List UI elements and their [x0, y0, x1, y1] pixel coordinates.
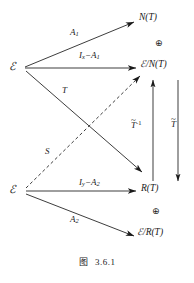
direct-sum-icon-top: ⊕: [155, 39, 163, 48]
commutative-diagram-canvas: [0, 0, 194, 283]
edge-label-ix-minus-a1: Ix−A1: [79, 51, 100, 61]
caption-number: 3.6.1: [95, 257, 116, 267]
node-label-x-space: ℰ: [9, 61, 16, 72]
edge-label-s: S: [45, 147, 50, 156]
figure-3-6-1: ℰ ℰ N(T) ℰ/N(T) R(T) ℰ/R(T) A1 Ix−A1 T S…: [0, 0, 194, 283]
arrow-y-to-y-mod-rt: [26, 194, 134, 236]
direct-sum-icon-bottom: ⊕: [152, 207, 160, 216]
node-label-nt: N(T): [139, 13, 157, 23]
edge-label-t: T: [62, 86, 67, 95]
node-label-y-space: ℰ: [9, 184, 16, 195]
edge-label-t-tilde: ~T: [171, 120, 176, 129]
figure-caption: 图3.6.1: [0, 255, 194, 268]
edge-label-a1: A1: [70, 28, 79, 38]
arrow-y-to-x-mod-nt-map-s: [26, 76, 140, 188]
caption-prefix: 图: [79, 257, 89, 267]
arrow-x-to-rt-map-t: [26, 71, 142, 172]
node-label-y-mod-rt: ℰ/R(T): [137, 228, 163, 238]
edge-label-iy-minus-a2: Iy−A2: [79, 178, 100, 188]
edge-label-t-tilde-inverse: ~T-1: [131, 120, 141, 130]
node-label-rt: R(T): [141, 184, 158, 194]
node-label-x-mod-nt: ℰ/N(T): [140, 60, 167, 70]
edge-label-a2: A2: [70, 215, 79, 225]
